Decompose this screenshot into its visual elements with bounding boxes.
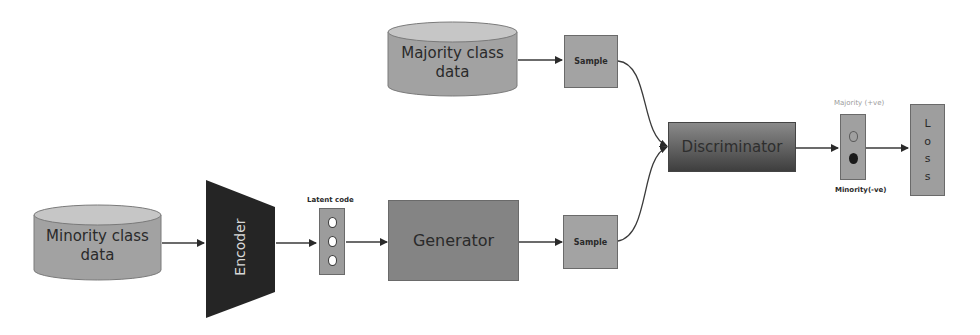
loss-letter: s <box>925 152 931 165</box>
latent-unit-icon <box>328 236 337 247</box>
latent-unit-icon <box>328 255 337 266</box>
loss-letter: o <box>924 135 931 148</box>
sample-top-label: Sample <box>574 57 607 66</box>
majority-data-line1: Majority class <box>388 44 517 63</box>
loss-letter: s <box>925 170 931 183</box>
minority-data-line1: Minority class <box>34 227 161 246</box>
output-indicator-node <box>840 114 866 180</box>
latent-code-node <box>319 208 345 275</box>
latent-unit-icon <box>328 217 337 228</box>
latent-code-label: Latent code <box>307 196 354 204</box>
minority-data-label: Minority class data <box>34 227 161 265</box>
edge-sample-top-to-discriminator <box>618 61 667 146</box>
sample-bottom-label: Sample <box>574 238 607 247</box>
majority-data-line2: data <box>388 63 517 82</box>
minority-data-line2: data <box>34 246 161 265</box>
loss-letter: L <box>924 117 930 130</box>
sample-bottom-node: Sample <box>563 215 618 269</box>
edge-sample-bottom-to-discriminator <box>618 147 667 241</box>
minority-output-label: Minority(-ve) <box>835 186 887 194</box>
generator-node: Generator <box>388 200 519 281</box>
discriminator-node: Discriminator <box>668 122 796 172</box>
sample-top-node: Sample <box>564 35 618 88</box>
majority-hollow-circle-icon <box>849 131 858 142</box>
minority-filled-circle-icon <box>849 153 858 164</box>
discriminator-label: Discriminator <box>682 138 783 156</box>
loss-node: L o s s <box>910 104 945 196</box>
majority-data-label: Majority class data <box>388 44 517 82</box>
generator-label: Generator <box>413 231 494 250</box>
encoder-label: Encoder <box>232 212 248 282</box>
majority-output-label: Majority (+ve) <box>834 99 884 107</box>
